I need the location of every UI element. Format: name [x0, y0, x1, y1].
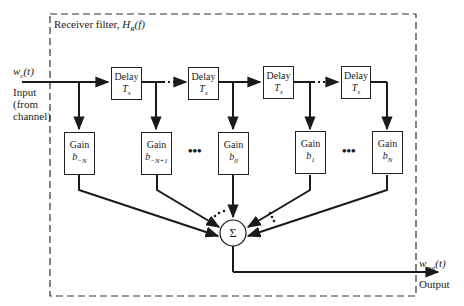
input-signal-label: wc(t): [13, 65, 34, 82]
delay-label: Delay: [112, 71, 141, 83]
output-signal-label: wout(t): [419, 257, 446, 274]
delay-box-4: Delay Ts: [341, 66, 371, 99]
delay-value-sub: s: [280, 88, 283, 96]
gain-label: Gain: [142, 139, 171, 151]
delay-box-3: Delay Ts: [263, 66, 294, 99]
input-label-line: channel): [13, 110, 51, 122]
gain-box-b-1: Gain b1: [295, 131, 326, 174]
gain-coef-sub: N: [388, 156, 393, 164]
delay-value-sub: s: [205, 89, 208, 97]
title-text: Receiver filter,: [54, 18, 122, 30]
delay-label: Delay: [342, 70, 370, 82]
delay-box-2: Delay Ts: [188, 67, 219, 100]
filter-title: Receiver filter, HR(f): [54, 18, 145, 35]
delay-value-sub: s: [357, 88, 360, 96]
input-label-line: (from: [13, 98, 51, 110]
gain-coef-sub: −N+1: [150, 157, 168, 165]
gain-label: Gain: [65, 139, 94, 151]
ellipsis-right: •••: [342, 143, 356, 159]
delay-value-sub: s: [128, 89, 131, 97]
title-arg: (f): [135, 18, 145, 30]
delay-label: Delay: [189, 71, 218, 83]
gain-label: Gain: [219, 139, 248, 151]
input-label-line: Input: [13, 86, 51, 98]
gain-box-b-n: Gain bN: [372, 131, 403, 174]
summer-symbol: Σ: [220, 226, 246, 241]
gain-coef-sub: 0: [234, 157, 238, 165]
gain-box-b-0: Gain b0: [218, 132, 249, 175]
gain-box-b-minus-n-plus-1: Gain b−N+1: [141, 132, 172, 175]
input-label: Input (from channel): [13, 86, 51, 122]
gain-label: Gain: [296, 138, 325, 150]
gain-label: Gain: [373, 138, 402, 150]
gain-box-b-minus-n: Gain b−N: [64, 132, 95, 175]
delay-box-1: Delay Ts: [111, 67, 142, 100]
output-signal-arg: (t): [435, 257, 445, 269]
gain-coef-sub: 1: [311, 156, 315, 164]
gain-coef-sub: −N: [77, 157, 86, 165]
input-signal-arg: (t): [23, 65, 33, 77]
ellipsis-left: •••: [188, 143, 202, 159]
delay-label: Delay: [264, 70, 293, 82]
output-label: Output: [419, 278, 450, 290]
output-signal-sub: out: [426, 264, 435, 272]
